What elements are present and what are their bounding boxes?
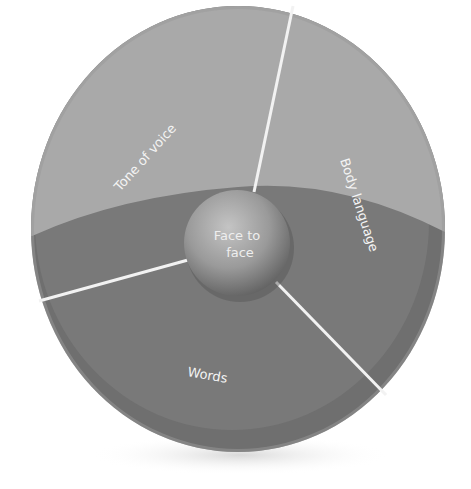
hub-sphere (184, 190, 290, 296)
hub-label-line2: face (226, 245, 254, 260)
hub-label-line1: Face to (214, 228, 261, 243)
communication-wheel-diagram: Tone of voice Body language Words Face t… (0, 0, 471, 489)
